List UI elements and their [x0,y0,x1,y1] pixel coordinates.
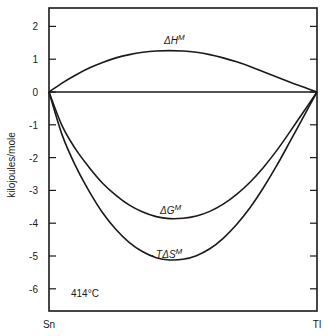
y-tick-label: -1 [29,120,38,131]
y-tick-label: -2 [29,153,38,164]
y-tick-label: -3 [29,185,38,196]
minus-t-delta-s-curve [49,92,317,260]
labels: ΔHMΔGM- TΔSM [150,33,185,260]
delta-h-label: ΔHM [163,33,185,46]
y-tick-label: 2 [32,21,38,32]
x-label-tl: Tl [313,319,321,330]
y-tick-label: -5 [29,251,38,262]
y-tick-label: -6 [29,284,38,295]
y-tick-label: 0 [32,87,38,98]
y-axis-title: kilojoules/mole [6,132,17,198]
y-tick-label: -4 [29,218,38,229]
delta-g-label: ΔGM [159,203,182,216]
curves [49,51,317,260]
x-label-sn: Sn [43,319,55,330]
delta-g-curve [49,92,317,219]
plot-border [49,8,317,311]
y-tick-label: 1 [32,54,38,65]
delta-h-curve [49,51,317,92]
chart: 210-1-2-3-4-5-6 ΔHMΔGM- TΔSM kilojoules/… [0,0,328,336]
minus-t-delta-s-label: - TΔSM [150,247,183,260]
plot-frame [49,8,317,311]
temperature-annotation: 414°C [71,288,99,299]
